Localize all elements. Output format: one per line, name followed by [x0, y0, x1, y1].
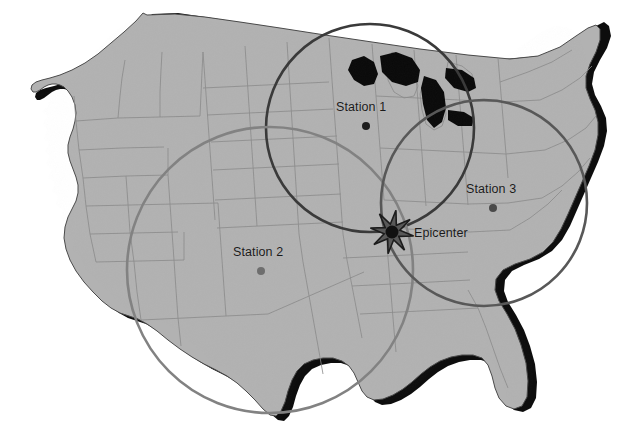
- epicenter-label: Epicenter: [414, 226, 468, 240]
- station-2-marker[interactable]: [257, 267, 265, 275]
- map-canvas: [0, 0, 628, 423]
- epicenter-core-dot[interactable]: [386, 226, 399, 239]
- land-mass-layer: [0, 0, 628, 423]
- earthquake-triangulation-figure: Station 1 Station 2 Station 3 Epicenter: [0, 0, 628, 423]
- station-3-label: Station 3: [466, 182, 516, 196]
- station-1-marker[interactable]: [362, 122, 370, 130]
- station-1-label: Station 1: [336, 100, 386, 114]
- station-2-label: Station 2: [233, 245, 283, 259]
- station-3-marker[interactable]: [489, 204, 497, 212]
- map-texture: [0, 0, 628, 423]
